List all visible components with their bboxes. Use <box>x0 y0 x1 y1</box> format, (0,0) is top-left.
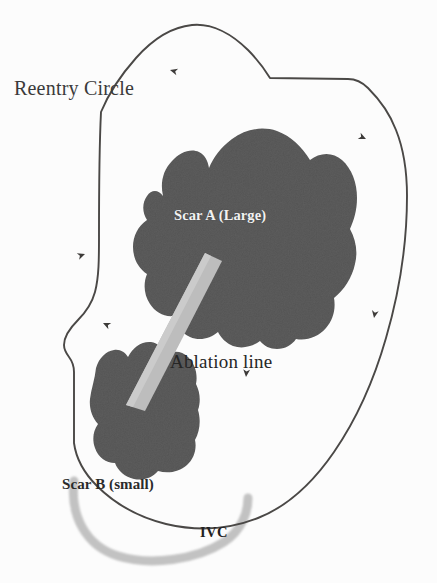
diagram-graphics <box>0 0 437 583</box>
reentry-circle-figure: Reentry Circle Scar A (Large) Ablation l… <box>0 0 437 583</box>
